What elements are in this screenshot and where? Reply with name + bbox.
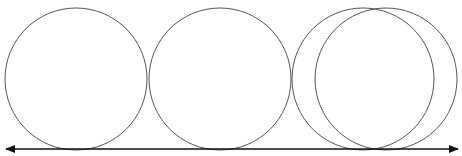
- circle-2: [149, 8, 291, 150]
- diagram-canvas: [0, 0, 462, 156]
- circle-4: [315, 8, 457, 150]
- circle-3: [292, 8, 434, 150]
- circle-1: [5, 8, 147, 150]
- circles-group: [5, 8, 457, 150]
